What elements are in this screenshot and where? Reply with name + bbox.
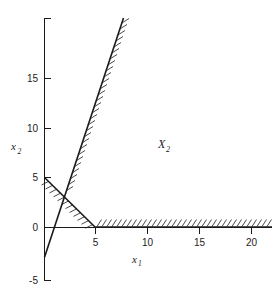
plot-svg: 15 10 5 0 -5 5 10 15 20 x 1 x 2 X 2 xyxy=(0,0,280,299)
x-tick-label-20: 20 xyxy=(246,237,258,248)
x-tick-labels: 5 10 15 20 xyxy=(93,237,258,248)
x-axis-label-main: x xyxy=(131,253,137,265)
region-label-main: X xyxy=(157,137,166,151)
region-label-subscript: 2 xyxy=(166,145,170,154)
y-tick-label-10: 10 xyxy=(27,123,39,134)
region-label-x2: X 2 xyxy=(157,137,170,154)
y-axis-label-main: x xyxy=(10,140,16,152)
x-tick-label-5: 5 xyxy=(93,237,99,248)
y-tick-label-15: 15 xyxy=(27,73,39,84)
descending-constraint-line xyxy=(45,178,96,228)
x-tick-label-10: 10 xyxy=(142,237,154,248)
steep-constraint-line xyxy=(45,18,124,257)
x-tick-label-15: 15 xyxy=(194,237,206,248)
x-axis-label: x 1 xyxy=(131,253,142,268)
y-tick-label-neg5: -5 xyxy=(29,275,38,286)
y-axis-label: x 2 xyxy=(10,140,22,156)
y-tick-label-5: 5 xyxy=(32,172,38,183)
x-axis-constraint-hatching xyxy=(96,220,273,227)
y-tick-label-0: 0 xyxy=(32,222,38,233)
figure-canvas: 15 10 5 0 -5 5 10 15 20 x 1 x 2 X 2 xyxy=(0,0,280,299)
x-axis-label-subscript: 1 xyxy=(138,259,142,268)
y-tick-labels: 15 10 5 0 -5 xyxy=(27,73,39,286)
y-axis-label-subscript: 2 xyxy=(18,147,22,156)
